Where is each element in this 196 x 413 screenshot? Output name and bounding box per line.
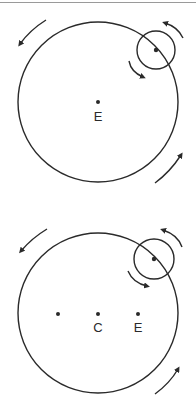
diagram-top [18, 20, 183, 183]
planet-dot [152, 257, 156, 261]
arrow-top-left-icon [20, 20, 46, 44]
label-earth-top: E [94, 109, 103, 124]
epicycle-diagrams: E C E [0, 0, 196, 413]
arrow-epicycle-outer-icon [163, 230, 182, 247]
equant-dot [56, 312, 60, 316]
arrow-bottom-right-icon [155, 155, 181, 183]
earth-dot [96, 100, 100, 104]
diagram-bottom [18, 229, 182, 394]
arrow-epicycle-inner-icon [128, 271, 147, 286]
arrow-top-left-icon [21, 229, 47, 251]
arrow-epicycle-inner-icon [129, 61, 143, 77]
arrow-bottom-right-icon [155, 369, 178, 394]
planet-dot [154, 48, 158, 52]
center-dot [96, 312, 100, 316]
earth-dot [136, 312, 140, 316]
label-center-bottom: C [93, 320, 102, 335]
label-earth-bottom: E [134, 320, 143, 335]
